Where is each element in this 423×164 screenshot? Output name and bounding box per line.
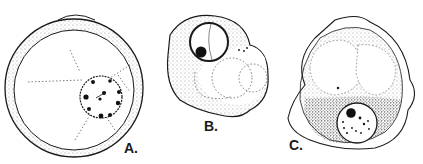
nucleus-c: [337, 103, 377, 143]
panel-label-a: A.: [124, 140, 138, 156]
cell-illustration-figure: [0, 0, 423, 164]
cell-c: [288, 16, 415, 149]
cell-a: [5, 15, 143, 157]
panel-label-c: C.: [289, 137, 303, 153]
cell-b: [168, 15, 269, 116]
panel-label-b: B.: [204, 118, 218, 134]
nucleus-a: [80, 76, 122, 118]
